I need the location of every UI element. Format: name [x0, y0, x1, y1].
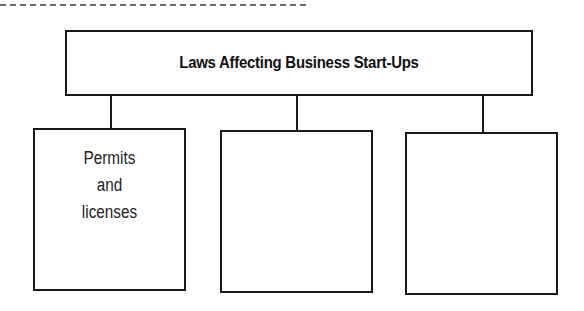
child-node-3 — [405, 132, 558, 295]
child-node-1-line-1: Permits — [46, 145, 173, 172]
child-node-1-text: Permits and licenses — [46, 145, 173, 226]
child-node-1-line-2: and — [46, 172, 173, 199]
dashed-rule — [0, 4, 306, 6]
child-node-1: Permits and licenses — [33, 128, 186, 291]
connector-3 — [482, 95, 484, 132]
connector-1 — [110, 95, 112, 130]
connector-2 — [296, 95, 298, 131]
root-node-label: Laws Affecting Business Start-Ups — [179, 53, 418, 73]
child-node-2 — [220, 130, 373, 293]
child-node-1-line-3: licenses — [46, 199, 173, 226]
root-node: Laws Affecting Business Start-Ups — [65, 30, 533, 96]
